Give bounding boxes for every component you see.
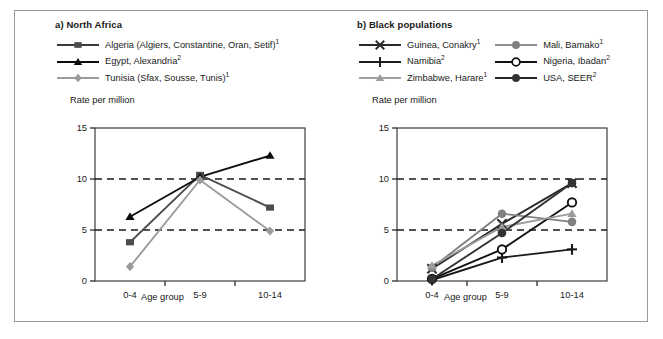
- y-axis-tick-label: 10: [77, 174, 87, 184]
- data-point-marker: [498, 229, 507, 238]
- data-point-marker: [567, 244, 577, 255]
- panel-black-populations: b) Black populations Guinea, Conakry1Nam…: [331, 11, 649, 321]
- y-axis-tick-label: 10: [379, 174, 389, 184]
- x-axis-tick-label: 5-9: [495, 290, 508, 300]
- x-axis-tick-label: 10-14: [560, 290, 584, 300]
- chart-a-plot: 0510150-45-910-14: [15, 11, 331, 323]
- x-axis-tick-label: 0-4: [123, 290, 136, 300]
- series-line: [130, 180, 270, 267]
- data-point-marker: [498, 245, 506, 253]
- panel-north-africa: a) North Africa Algeria (Algiers, Consta…: [15, 11, 331, 321]
- series-line: [130, 175, 270, 242]
- data-point-marker: [498, 209, 507, 218]
- data-point-marker: [266, 204, 274, 210]
- data-point-marker: [125, 212, 134, 220]
- x-axis-tick-label: 0-4: [425, 290, 438, 300]
- data-point-marker: [126, 239, 134, 245]
- y-axis-tick-label: 5: [384, 225, 389, 235]
- y-axis-tick-label: 0: [82, 276, 87, 286]
- y-axis-tick-label: 15: [77, 123, 87, 133]
- data-point-marker: [568, 179, 577, 188]
- y-axis-tick-label: 0: [384, 276, 389, 286]
- data-point-marker: [568, 218, 577, 227]
- data-point-marker: [568, 198, 576, 206]
- data-point-marker: [428, 275, 437, 284]
- x-axis-tick-label: 5-9: [193, 290, 206, 300]
- series-line: [130, 156, 270, 217]
- figure-frame: a) North Africa Algeria (Algiers, Consta…: [14, 10, 648, 322]
- chart-b-plot: 0510150-45-910-14: [331, 11, 649, 323]
- x-axis-tick-label: 10-14: [258, 290, 282, 300]
- y-axis-tick-label: 5: [82, 225, 87, 235]
- data-point-marker: [567, 209, 576, 217]
- data-point-marker: [265, 151, 274, 159]
- y-axis-tick-label: 15: [379, 123, 389, 133]
